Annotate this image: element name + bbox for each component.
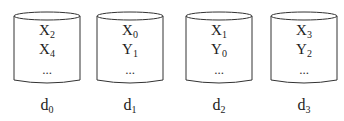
disk-label: d1: [95, 96, 165, 115]
block-entry: X0: [95, 23, 165, 42]
block-entry: X1: [184, 23, 254, 42]
disk-d1: X0 Y1 ... d1: [95, 0, 165, 121]
disk-label: d2: [184, 96, 254, 115]
block-entry: Y0: [184, 42, 254, 61]
ellipsis: ...: [95, 62, 165, 78]
ellipsis: ...: [184, 62, 254, 78]
block-entry: X3: [269, 23, 339, 42]
disk-label: d3: [269, 96, 339, 115]
ellipsis: ...: [269, 62, 339, 78]
disk-d0: X2 X4 ... d0: [12, 0, 82, 121]
disk-d3: X3 Y2 ... d3: [269, 0, 339, 121]
ellipsis: ...: [12, 62, 82, 78]
block-entry: Y2: [269, 42, 339, 61]
block-entry: X4: [12, 42, 82, 61]
disk-d2: X1 Y0 ... d2: [184, 0, 254, 121]
block-entry: Y1: [95, 42, 165, 61]
block-entry: X2: [12, 23, 82, 42]
disk-label: d0: [12, 96, 82, 115]
